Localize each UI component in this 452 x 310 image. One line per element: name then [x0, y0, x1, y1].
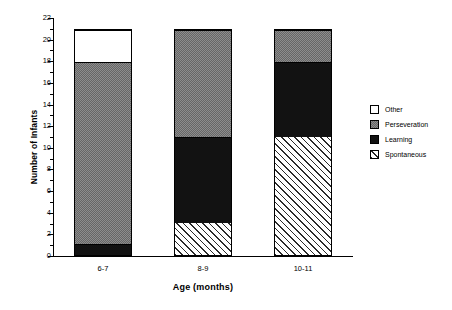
y-axis-line	[53, 18, 54, 256]
hatch-swatch	[370, 150, 379, 159]
black-swatch	[370, 135, 379, 144]
y-axis-tick-minor	[50, 245, 53, 246]
y-axis-tick-minor	[50, 137, 53, 138]
y-axis-tick-label: 0	[29, 252, 51, 259]
y-axis-tick-label: 4	[29, 209, 51, 217]
legend-item-other[interactable]: Other	[370, 102, 452, 117]
legend-item-label: Other	[385, 105, 403, 114]
bar-segment-learning	[75, 244, 131, 255]
y-axis-tick-label: 16	[29, 79, 51, 87]
x-axis-tick-label: 6-7	[55, 264, 151, 273]
y-axis-tick-minor	[50, 224, 53, 225]
bar-segment-learning	[275, 62, 331, 137]
legend-item-learning[interactable]: Learning	[370, 132, 452, 147]
chart-canvas: Number of Infants 0246810121416182022 6-…	[0, 0, 452, 310]
x-axis-tick-label: 8-9	[155, 264, 251, 273]
y-axis-tick-minor	[50, 94, 53, 95]
y-axis-tick-label: 12	[29, 122, 51, 130]
y-axis-tick-label: 18	[29, 58, 51, 66]
y-axis-tick-minor	[50, 50, 53, 51]
legend-item-label: Spontaneous	[385, 150, 426, 159]
legend: OtherPerseverationLearningSpontaneous	[370, 102, 452, 162]
y-axis-tick-label: 20	[29, 36, 51, 44]
y-axis-tick-minor	[50, 159, 53, 160]
legend-item-label: Learning	[385, 135, 412, 144]
bar-segment-spontaneous	[275, 137, 331, 255]
bar-8-9[interactable]	[174, 29, 232, 256]
white-swatch	[370, 105, 379, 114]
bar-segment-perseveration	[75, 62, 131, 244]
legend-item-label: Perseveration	[385, 120, 428, 129]
bar-segment-spontaneous	[175, 223, 231, 255]
x-axis-line	[53, 256, 353, 257]
y-axis-tick-minor	[50, 72, 53, 73]
bar-segment-learning	[175, 137, 231, 223]
x-axis-title: Age (months)	[53, 282, 353, 292]
y-axis-tick-minor	[50, 180, 53, 181]
gray-swatch	[370, 120, 379, 129]
y-axis-tick-label: 10	[29, 144, 51, 152]
legend-item-spontaneous[interactable]: Spontaneous	[370, 147, 452, 162]
y-axis-tick-label: 22	[29, 14, 51, 21]
y-axis-tick-minor	[50, 29, 53, 30]
bar-6-7[interactable]	[74, 29, 132, 256]
bar-segment-other	[75, 30, 131, 62]
y-axis-tick-label: 2	[29, 231, 51, 239]
x-axis-tick-label: 10-11	[255, 264, 351, 273]
y-axis-tick-minor	[50, 115, 53, 116]
bar-segment-perseveration	[175, 30, 231, 137]
y-axis-tick-minor	[50, 202, 53, 203]
plot-area: 0246810121416182022 6-78-910-11	[53, 18, 353, 256]
y-axis-tick-label: 8	[29, 166, 51, 174]
bar-10-11[interactable]	[274, 29, 332, 256]
y-axis-tick-label: 6	[29, 187, 51, 195]
y-axis-tick-label: 14	[29, 101, 51, 109]
legend-item-perseveration[interactable]: Perseveration	[370, 117, 452, 132]
bar-segment-perseveration	[275, 30, 331, 62]
